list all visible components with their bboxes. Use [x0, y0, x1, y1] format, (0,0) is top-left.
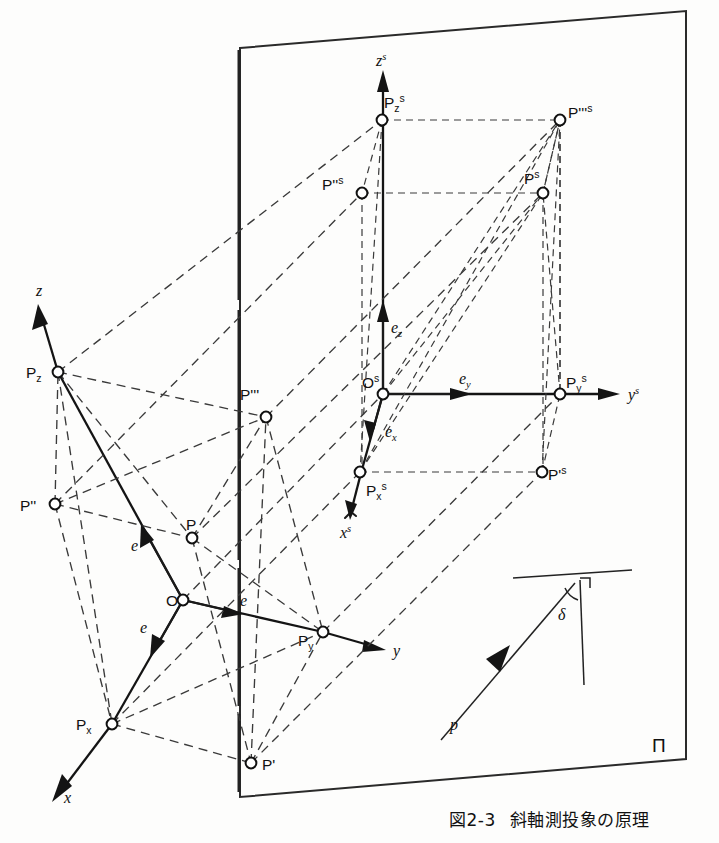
label-point-Ps-double-prime: P''s [322, 174, 344, 193]
label-point-Psx: Pxs [366, 480, 387, 502]
projection-rays [55, 120, 560, 763]
node-Ps [538, 188, 549, 199]
object-space-box [55, 372, 323, 763]
x-axis [52, 600, 183, 802]
e-vector-z [140, 524, 183, 600]
node-Psy [555, 389, 566, 400]
z-axis [32, 304, 183, 600]
node-Pz [53, 367, 64, 378]
label-e-vector-x: e [140, 619, 147, 636]
label-xs-axis: xs [339, 523, 351, 541]
label-zs-axis: zs [375, 51, 386, 69]
label-ex-vector: ex [385, 423, 397, 443]
label-plane-pi: Π [652, 735, 666, 756]
label-group: O P P' P'' P''' Pz Px Py x y z e e e Os … [20, 51, 666, 806]
node-Px [107, 719, 118, 730]
node-O [178, 595, 189, 606]
node-Psx [355, 467, 366, 478]
node-Ps-triple-prime [555, 115, 566, 126]
label-y-axis: y [391, 642, 401, 660]
node-Os [378, 389, 389, 400]
label-ray-p: p [449, 716, 458, 734]
label-point-Px: Px [76, 716, 92, 736]
ex-vector [364, 394, 383, 442]
node-P-triple-prime [261, 412, 272, 423]
figure-canvas: O P P' P'' P''' Pz Px Py x y z e e e Os … [0, 0, 719, 843]
node-Ps-double-prime [357, 188, 368, 199]
label-point-Ps-triple-prime: P'''s [568, 102, 592, 121]
node-group [50, 115, 566, 769]
label-origin-Os: Os [362, 372, 379, 391]
figure-caption: 図2-3斜軸測投象の原理 [449, 810, 650, 830]
node-P-double-prime [50, 499, 61, 510]
label-point-P: P [186, 516, 196, 533]
label-point-Pz: Pz [26, 364, 42, 384]
node-Py [318, 627, 329, 638]
node-Psz [377, 115, 388, 126]
label-point-P-triple-prime: P''' [240, 386, 259, 403]
label-ys-axis: ys [626, 385, 639, 404]
label-point-Psy: Pys [566, 372, 587, 394]
label-ey-vector: ey [459, 370, 471, 390]
label-point-Ps-prime: P's [548, 464, 567, 483]
label-point-Psz: Pzs [384, 92, 405, 114]
label-point-P-double-prime: P'' [20, 497, 36, 514]
label-e-vector-z: e [131, 537, 138, 554]
label-e-vector-y: e [240, 592, 247, 609]
node-Ps-prime [537, 467, 548, 478]
label-angle-delta: δ [558, 606, 566, 623]
node-P [187, 533, 198, 544]
node-P-prime [246, 758, 257, 769]
label-origin-O: O [166, 592, 178, 609]
projection-plane-outline [240, 11, 686, 797]
diagram-svg: O P P' P'' P''' Pz Px Py x y z e e e Os … [0, 0, 719, 843]
label-x-axis: x [63, 789, 71, 806]
ey-vector [383, 388, 472, 400]
label-z-axis: z [35, 282, 43, 299]
label-point-Ps: Ps [524, 168, 540, 187]
e-vector-y [183, 600, 244, 618]
angle-detail [441, 570, 632, 740]
label-point-P-prime: P' [262, 756, 275, 773]
label-point-Py: Py [298, 632, 314, 652]
